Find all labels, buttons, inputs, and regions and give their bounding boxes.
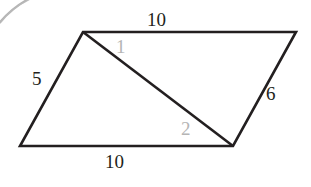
side-label-top: 10	[147, 10, 166, 29]
angle-label-one: 1	[116, 37, 126, 56]
side-label-left: 5	[32, 69, 42, 88]
side-label-right: 6	[266, 84, 276, 103]
angle-label-two: 2	[181, 119, 191, 138]
side-label-bottom: 10	[105, 152, 124, 171]
diagonal-line	[83, 32, 233, 146]
geometry-figure: 10 5 6 10 1 2	[0, 0, 311, 187]
